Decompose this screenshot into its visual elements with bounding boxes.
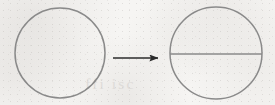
diagram-canvas: ffi isc (0, 0, 275, 105)
diagram-vector-layer (0, 0, 275, 105)
right-circle (170, 7, 262, 99)
left-circle (15, 8, 105, 98)
